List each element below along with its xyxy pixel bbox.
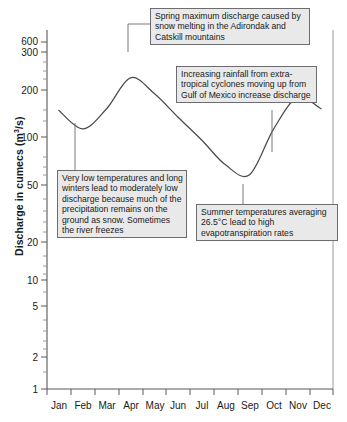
y-tick-label-50: 50	[27, 180, 39, 191]
x-tick-label-feb: Feb	[74, 400, 92, 411]
y-tick-label-1: 1	[32, 384, 38, 395]
y-tick-label-300: 300	[21, 47, 38, 58]
leader-line-spring	[128, 24, 150, 52]
x-tick-label-dec: Dec	[313, 400, 331, 411]
x-tick-label-aug: Aug	[217, 400, 235, 411]
chart-root: Discharge in cumecs (m3/s)	[0, 0, 347, 422]
annotation-spring-text: Spring maximum discharge caused by snow …	[155, 11, 301, 42]
y-axis-ticks	[41, 42, 47, 389]
x-tick-label-may: May	[146, 400, 165, 411]
annotation-low-temperatures: Very low temperatures and long winters l…	[57, 170, 187, 238]
y-tick-label-5: 5	[32, 301, 38, 312]
x-tick-label-jul: Jul	[196, 400, 209, 411]
y-tick-label-10: 10	[27, 275, 39, 286]
annotation-increasing-rainfall: Increasing rainfall from extra-tropical …	[176, 66, 317, 103]
annotation-spring-maximum: Spring maximum discharge caused by snow …	[150, 8, 310, 45]
y-tick-label-100: 100	[21, 132, 38, 143]
annotation-summer-temperatures: Summer temperatures averaging 26.5°C lea…	[196, 204, 338, 241]
y-tick-label-2: 2	[32, 352, 38, 363]
x-tick-label-jan: Jan	[51, 400, 67, 411]
x-tick-label-mar: Mar	[98, 400, 116, 411]
y-tick-label-200: 200	[21, 85, 38, 96]
x-tick-label-nov: Nov	[289, 400, 307, 411]
x-axis-ticks	[47, 389, 333, 395]
annotation-summer-text: Summer temperatures averaging 26.5°C lea…	[201, 207, 327, 238]
y-tick-label-600: 600	[21, 36, 38, 47]
y-tick-label-20: 20	[27, 237, 39, 248]
annotation-rain-text: Increasing rainfall from extra-tropical …	[181, 69, 310, 100]
x-tick-label-jun: Jun	[170, 400, 186, 411]
x-tick-label-sep: Sep	[241, 400, 259, 411]
annotation-winter-text: Very low temperatures and long winters l…	[62, 173, 183, 235]
x-tick-label-oct: Oct	[266, 400, 282, 411]
x-tick-label-apr: Apr	[123, 400, 139, 411]
